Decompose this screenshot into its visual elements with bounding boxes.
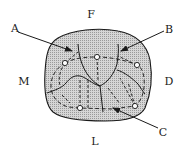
diagram-canvas: F M D L A B C xyxy=(0,0,180,154)
cusp-tip-circle xyxy=(94,54,99,59)
label-mesial: M xyxy=(18,76,29,87)
label-pointer-a: A xyxy=(11,23,19,34)
cusp-tip-circle xyxy=(62,60,67,65)
label-lingual: L xyxy=(91,136,98,147)
label-pointer-b: B xyxy=(165,24,173,35)
cusp-tip-circle xyxy=(77,105,82,110)
label-pointer-c: C xyxy=(159,127,167,138)
cusp-tip-circle xyxy=(132,103,137,108)
label-facial: F xyxy=(87,9,95,20)
label-distal: D xyxy=(165,76,174,87)
cusp-tip-circle xyxy=(134,62,139,67)
